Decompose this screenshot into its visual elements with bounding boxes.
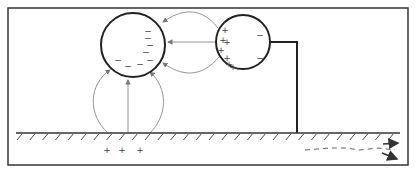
negative-charge: − bbox=[256, 53, 264, 63]
negative-charge: − bbox=[114, 55, 122, 65]
positive-charge: + bbox=[136, 145, 144, 155]
ground-wire bbox=[270, 42, 297, 133]
field-lines-ground-to-sphere bbox=[93, 70, 163, 133]
negative-charge: − bbox=[256, 30, 264, 40]
positive-charge: + bbox=[103, 145, 111, 155]
diagram-canvas: −−−−−−−−+++++++−− +++ bbox=[0, 0, 415, 174]
current-arrow-icon bbox=[382, 153, 397, 159]
positive-charge: + bbox=[221, 25, 229, 35]
negative-charge: − bbox=[144, 26, 152, 36]
ground-charges: +++ bbox=[103, 145, 144, 155]
field-lines-between-spheres bbox=[163, 12, 220, 73]
ground-surface bbox=[16, 133, 400, 140]
positive-charge: + bbox=[229, 62, 237, 72]
current-arrows bbox=[305, 143, 398, 159]
current-arrow-icon bbox=[383, 143, 398, 144]
positive-charge: + bbox=[118, 145, 126, 155]
negative-charge: − bbox=[146, 55, 154, 65]
right-sphere: +++++++−− bbox=[216, 15, 270, 72]
negative-charge: − bbox=[124, 61, 132, 71]
diagram-frame bbox=[8, 8, 408, 165]
left-sphere: −−−−−−−− bbox=[101, 13, 165, 77]
negative-charge: − bbox=[136, 59, 144, 69]
